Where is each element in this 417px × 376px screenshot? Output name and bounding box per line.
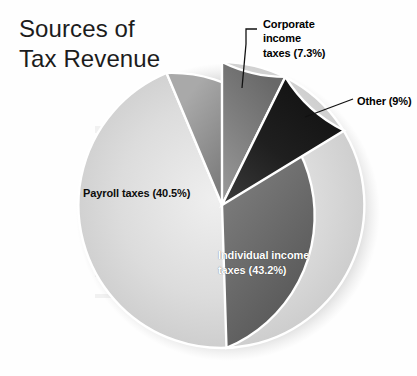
slice-label-payroll-taxes: Payroll taxes (40.5%)	[83, 186, 190, 201]
pie-chart-graphic	[0, 0, 417, 376]
slice-label-other: Other (9%)	[357, 94, 412, 108]
slice-label-individual-income-taxes: Individual income taxes (43.2%)	[218, 248, 309, 277]
pie-chart-figure: Sources of Tax Revenue	[0, 0, 417, 376]
slice-label-corporate-income-taxes: Corporate income taxes (7.3%)	[263, 17, 325, 60]
